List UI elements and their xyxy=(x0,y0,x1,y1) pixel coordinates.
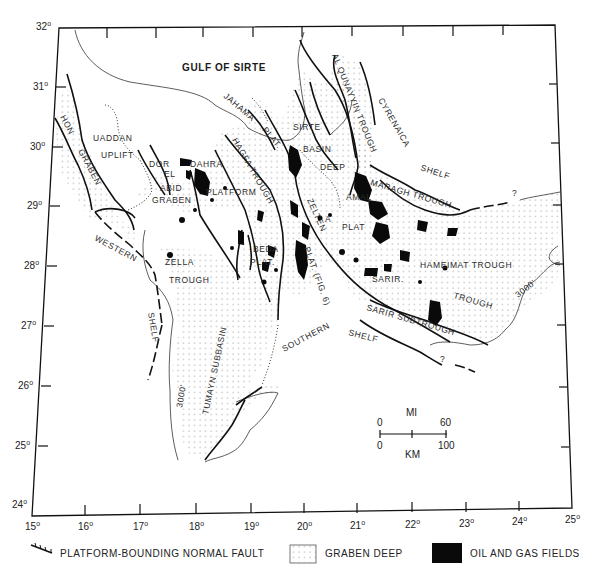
svg-text:BEDA: BEDA xyxy=(253,244,279,254)
svg-text:?: ? xyxy=(512,188,517,198)
svg-text:DEEP: DEEP xyxy=(320,162,346,172)
svg-text:20o: 20o xyxy=(297,520,312,532)
svg-text:SHELF: SHELF xyxy=(419,162,451,181)
svg-text:?: ? xyxy=(440,354,445,364)
svg-text:15o: 15o xyxy=(25,520,40,532)
svg-text:0: 0 xyxy=(377,440,383,451)
svg-text:GRABEN: GRABEN xyxy=(152,195,192,205)
svg-text:60: 60 xyxy=(440,417,452,428)
legend-item-fault: PLATFORM-BOUNDING NORMAL FAULT xyxy=(31,543,264,559)
svg-text:27o: 27o xyxy=(21,319,36,331)
svg-text:29o: 29o xyxy=(27,199,42,211)
svg-text:23o: 23o xyxy=(459,517,474,529)
svg-text:MI: MI xyxy=(406,407,417,418)
svg-text:18o: 18o xyxy=(189,520,204,532)
svg-text:PLATFORM: PLATFORM xyxy=(206,187,256,197)
gulf-of-sirte-label: GULF OF SIRTE xyxy=(182,62,266,73)
svg-text:100: 100 xyxy=(438,440,455,451)
svg-text:ABID: ABID xyxy=(160,183,182,193)
svg-text:32o: 32o xyxy=(36,20,51,32)
svg-text:ZELLA: ZELLA xyxy=(165,257,194,267)
svg-text:UADDAN: UADDAN xyxy=(93,133,133,143)
svg-text:GRABEN DEEP: GRABEN DEEP xyxy=(325,548,403,559)
svg-text:UPLIFT: UPLIFT xyxy=(101,150,134,160)
svg-text:25o: 25o xyxy=(15,439,30,451)
svg-text:PLATFORM-BOUNDING NORMAL FAULT: PLATFORM-BOUNDING NORMAL FAULT xyxy=(60,548,264,559)
svg-text:30o: 30o xyxy=(30,140,45,152)
svg-text:0: 0 xyxy=(377,417,383,428)
solid-black-icon xyxy=(432,543,462,563)
svg-text:PLAT: PLAT xyxy=(342,222,365,232)
scale-bar: MI 0 60 0 100 KM xyxy=(377,407,455,460)
svg-text:28o: 28o xyxy=(24,259,39,271)
svg-text:31o: 31o xyxy=(33,80,48,92)
legend-item-graben-deep: GRABEN DEEP xyxy=(290,545,403,563)
svg-text:TROUGH: TROUGH xyxy=(169,275,209,285)
sirte-basin-map: 32o 31o 30o 29o 28o 27o 26o 25o 24o 15o … xyxy=(0,0,600,583)
dot-pattern-icon xyxy=(290,545,316,563)
svg-text:AMAL: AMAL xyxy=(346,192,372,202)
svg-text:BASIN: BASIN xyxy=(303,144,332,154)
svg-text:24o: 24o xyxy=(512,515,527,527)
svg-text:16o: 16o xyxy=(78,520,93,532)
svg-text:25o: 25o xyxy=(565,513,580,525)
fault-symbol-icon xyxy=(31,545,52,553)
svg-text:PLAT.: PLAT. xyxy=(250,257,275,267)
svg-text:24o: 24o xyxy=(12,498,27,510)
svg-text:SHELF: SHELF xyxy=(146,312,161,344)
svg-text:DOR: DOR xyxy=(149,159,170,169)
svg-text:22o: 22o xyxy=(405,518,420,530)
svg-text:CYRENAICA: CYRENAICA xyxy=(376,96,412,149)
longitude-labels: 15o 16o 17o 18o 19o 20o 21o 22o 23o 24o … xyxy=(25,513,580,532)
svg-text:DAHRA: DAHRA xyxy=(190,159,223,169)
legend: PLATFORM-BOUNDING NORMAL FAULT GRABEN DE… xyxy=(31,543,580,563)
svg-text:SARIR.: SARIR. xyxy=(372,274,404,284)
svg-text:HAMEIMAT TROUGH: HAMEIMAT TROUGH xyxy=(420,260,512,270)
svg-text:OIL AND GAS FIELDS: OIL AND GAS FIELDS xyxy=(470,548,580,559)
legend-item-oil-gas: OIL AND GAS FIELDS xyxy=(432,543,580,563)
svg-text:SOUTHERN: SOUTHERN xyxy=(280,320,331,353)
svg-text:26o: 26o xyxy=(18,379,33,391)
svg-text:21o: 21o xyxy=(350,519,365,531)
svg-text:17o: 17o xyxy=(133,520,148,532)
svg-text:19o: 19o xyxy=(244,520,259,532)
svg-text:SIRTE: SIRTE xyxy=(293,122,321,132)
svg-text:KM: KM xyxy=(405,449,420,460)
svg-text:EL: EL xyxy=(164,169,176,179)
